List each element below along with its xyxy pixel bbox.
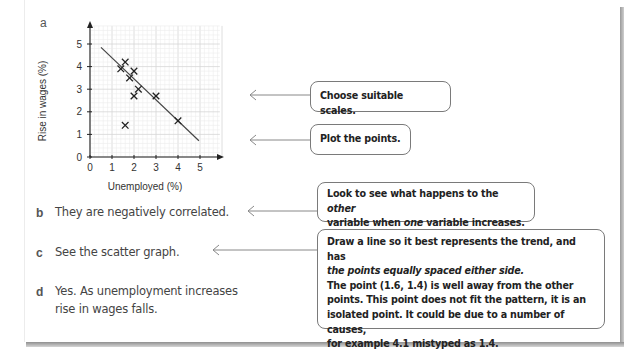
line-of-best-fit [101,47,199,140]
callout-correlation-text-2: variable when [327,217,404,228]
callout-correlation: Look to see what happens to the other va… [317,182,535,222]
callout-correlation-em-1: other [327,203,355,214]
svg-text:3: 3 [76,84,82,95]
part-d-answer-line-1: Yes. As unemployment increases [55,282,238,300]
svg-text:3: 3 [153,162,159,173]
svg-text:5: 5 [197,162,203,173]
scatter-chart: 012345012345 Unemployed (%) Rise in wage… [0,0,240,200]
part-d-label: d [36,285,43,299]
arrow-to-correlation-note [246,204,320,218]
page-shadow-right [620,7,624,347]
callout-trend-line-2: the points equally spaced either side. [327,264,595,279]
callout-trend-line: Draw a line so it best represents the tr… [317,229,605,329]
part-c-answer: See the scatter graph. [55,243,179,261]
callout-choose-scales: Choose suitable scales. [310,81,451,112]
callout-plot-text: Plot the points. [320,133,400,144]
part-c-label: c [36,246,43,260]
svg-text:5: 5 [76,39,82,50]
chart-ticks: 012345012345 [76,39,203,174]
callout-trend-line-4: points. This point does not fit the patt… [327,293,595,308]
part-d-answer: Yes. As unemployment increases rise in w… [55,282,238,318]
svg-text:2: 2 [76,106,82,117]
svg-text:1: 1 [76,129,82,140]
callout-trend-line-3: The point (1.6, 1.4) is well away from t… [327,279,595,294]
chart-grid [90,26,222,157]
part-d-answer-line-2: rise in wages falls. [55,300,238,318]
svg-text:0: 0 [87,162,93,173]
arrow-to-trend-note [211,243,321,257]
callout-correlation-em-2: one [404,217,423,228]
svg-text:0: 0 [76,152,82,163]
callout-scales-text: Choose suitable scales. [320,90,403,116]
callout-trend-line-1: Draw a line so it best represents the tr… [327,235,595,264]
svg-text:4: 4 [76,61,82,72]
callout-plot-points: Plot the points. [310,124,411,155]
callout-trend-line-5: isolated point. It could be due to a num… [327,308,595,337]
part-b-answer: They are negatively correlated. [55,203,229,221]
callout-correlation-text-3: variable increases. [423,217,525,228]
svg-text:4: 4 [175,162,181,173]
callout-trend-line-6: for example 4.1 mistyped as 1.4. [327,337,595,352]
y-axis-label: Rise in wages (%) [37,61,48,142]
part-b-label: b [36,206,43,220]
svg-text:2: 2 [131,162,137,173]
callout-correlation-text-1: Look to see what happens to the [327,188,498,199]
svg-text:1: 1 [109,162,115,173]
x-axis-label: Unemployed (%) [108,181,182,192]
